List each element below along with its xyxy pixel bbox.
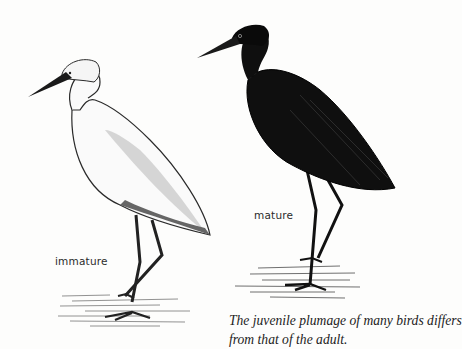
mature-heron-drawing <box>197 25 395 298</box>
mature-label: mature <box>254 209 293 221</box>
figure-caption: The juvenile plumage of many birds diffe… <box>229 311 459 349</box>
caption-line-1: The juvenile plumage of many birds diffe… <box>229 311 459 330</box>
immature-label: immature <box>55 255 108 267</box>
immature-heron-drawing <box>28 60 210 326</box>
caption-line-2: from that of the adult. <box>229 330 459 349</box>
